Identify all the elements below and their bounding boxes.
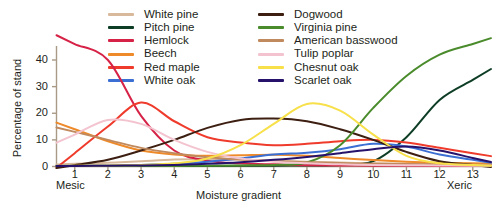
x-tick-label: 9 — [330, 168, 350, 180]
x-tick-label: 2 — [98, 168, 118, 180]
series-line — [57, 38, 492, 166]
y-tick-label: 20 — [26, 106, 48, 118]
x-tick-label: 10 — [363, 168, 383, 180]
x-tick-label: 3 — [131, 168, 151, 180]
x-tick-label: 1 — [65, 168, 85, 180]
x-tick-label: 11 — [396, 168, 416, 180]
y-tick-label: 0 — [26, 160, 48, 172]
y-axis-title: Percentage of stand — [11, 48, 23, 168]
x-axis-title: Moisture gradient — [196, 189, 281, 201]
x-tick-label: 6 — [231, 168, 251, 180]
x-axis-right-end-label: Xeric — [447, 179, 472, 191]
y-tick-label: 40 — [26, 53, 48, 65]
x-axis-left-end-label: Mesic — [56, 179, 85, 191]
x-tick-label: 13 — [463, 168, 483, 180]
chart-figure: White pineDogwoodPitch pineVirginia pine… — [0, 0, 504, 209]
y-tick-label: 30 — [26, 80, 48, 92]
x-tick-label: 5 — [197, 168, 217, 180]
x-tick-label: 4 — [164, 168, 184, 180]
x-tick-label: 8 — [297, 168, 317, 180]
x-tick-label: 7 — [264, 168, 284, 180]
x-tick-label: 12 — [430, 168, 450, 180]
y-tick-label: 10 — [26, 133, 48, 145]
